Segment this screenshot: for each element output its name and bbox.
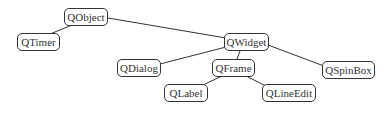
edge-qwidget-qframe <box>237 51 240 59</box>
edge-qobject-qwidget <box>108 18 226 38</box>
node-qspinbox: QSpinBox <box>322 61 375 79</box>
node-qtimer: QTimer <box>17 33 60 51</box>
class-hierarchy-diagram: QObject QTimer QWidget QDialog QFrame QS… <box>0 0 392 114</box>
node-qobject: QObject <box>64 8 108 26</box>
edge-qwidget-qspinbox <box>268 45 324 66</box>
node-qlineedit: QLineEdit <box>262 84 316 102</box>
node-qdialog: QDialog <box>117 59 161 77</box>
edge-qframe-qlabel <box>203 76 222 85</box>
node-qlabel: QLabel <box>164 84 208 102</box>
node-qframe: QFrame <box>212 59 255 77</box>
node-qwidget: QWidget <box>224 33 269 51</box>
